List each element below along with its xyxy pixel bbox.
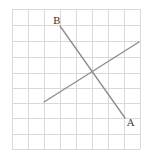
square-grid (12, 9, 141, 150)
point-labels: B A (53, 15, 135, 128)
label-point-b: B (53, 15, 60, 26)
grid-diagram: B A (0, 0, 161, 154)
label-point-a: A (126, 117, 135, 128)
